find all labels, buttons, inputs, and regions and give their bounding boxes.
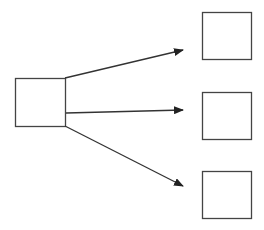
target-box-top xyxy=(203,13,252,60)
source-box xyxy=(16,79,66,127)
diagram-canvas xyxy=(0,0,264,230)
target-box-middle xyxy=(203,93,252,140)
arrow-to-bottom xyxy=(65,126,183,186)
arrow-to-middle xyxy=(66,110,183,113)
arrow-to-top xyxy=(65,50,183,78)
target-box-bottom xyxy=(203,172,252,219)
